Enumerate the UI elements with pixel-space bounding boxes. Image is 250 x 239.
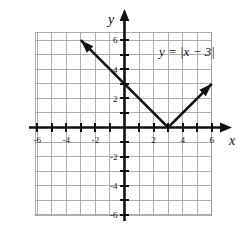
y-tick-label: 6: [113, 35, 118, 45]
x-tick-label: 4: [180, 135, 185, 145]
equation-label: y = |x − 3|: [157, 44, 215, 59]
x-axis-label: x: [228, 133, 236, 148]
coordinate-plane: -6-4-2246 642-2-4-6 x y y = |x − 3|: [0, 0, 250, 239]
y-tick-label: -2: [110, 152, 118, 162]
axes: [29, 9, 232, 221]
y-tick-label: -6: [110, 210, 118, 220]
x-tick-label: -2: [92, 135, 100, 145]
x-axis-arrowhead: [220, 123, 232, 133]
x-tick-label: -4: [63, 135, 71, 145]
y-axis-arrowhead: [120, 9, 130, 21]
graph-figure: -6-4-2246 642-2-4-6 x y y = |x − 3|: [0, 0, 250, 239]
y-axis-label: y: [106, 12, 115, 27]
x-tick-label: -6: [33, 135, 41, 145]
x-tick-label: 2: [151, 135, 156, 145]
y-tick-label: -4: [110, 181, 118, 191]
y-tick-label: 2: [113, 94, 118, 104]
x-tick-label: 6: [210, 135, 215, 145]
